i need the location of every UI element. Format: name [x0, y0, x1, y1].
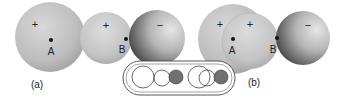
charge-a-3: − — [157, 19, 163, 31]
inset-a-negative-disk — [169, 70, 183, 84]
point-b-dot-b — [275, 36, 279, 40]
point-a-label-b: A — [229, 45, 236, 56]
point-b-label: B — [119, 44, 126, 55]
charge-a-2: + — [103, 19, 109, 31]
charge-b-1: + — [217, 18, 223, 30]
caption-a: (a) — [31, 79, 43, 90]
point-b-label-b: B — [270, 44, 277, 55]
point-a-label: A — [48, 46, 55, 57]
caption-b: (b) — [248, 77, 260, 88]
inset-a-large-circle — [132, 66, 154, 88]
point-a-dot — [49, 38, 53, 42]
diagram-canvas: + + − A B (a) + + − A B (b) — [0, 0, 340, 98]
sphere-a-large-positive — [15, 2, 85, 72]
charge-a-1: + — [32, 18, 38, 30]
inset-schematic — [123, 61, 235, 95]
point-b-dot — [124, 37, 128, 41]
point-a-dot-b — [231, 37, 235, 41]
inset-b-negative-disk — [214, 70, 228, 84]
sphere-b-negative — [276, 11, 330, 65]
charge-b-3: − — [305, 19, 311, 31]
charge-b-2: + — [247, 18, 253, 30]
